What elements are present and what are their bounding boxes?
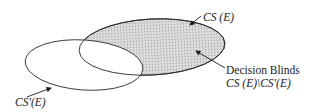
difference-formula-label: CS (E)\CS′(E) bbox=[226, 77, 291, 89]
decision-blinds-label: Decision Blinds bbox=[226, 64, 300, 76]
diagram-graphics bbox=[0, 0, 312, 112]
cs-prime-e-label: CS′(E) bbox=[15, 96, 46, 108]
venn-diagram: CS (E) Decision Blinds CS (E)\CS′(E) CS′… bbox=[0, 0, 312, 112]
cs-e-label: CS (E) bbox=[203, 11, 234, 23]
